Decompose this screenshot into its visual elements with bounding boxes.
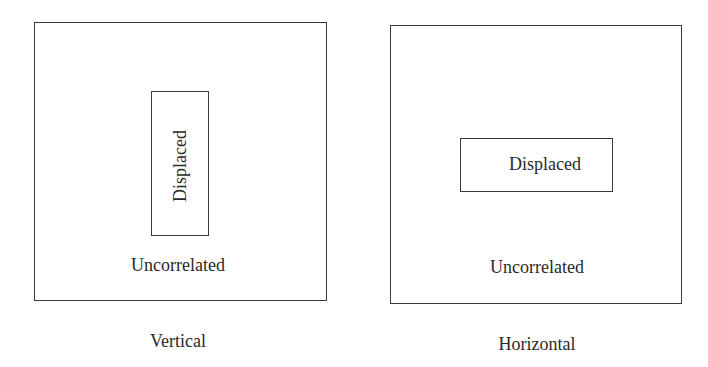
- uncorrelated-label-vertical: Uncorrelated: [80, 256, 276, 274]
- caption-horizontal: Horizontal: [437, 335, 637, 353]
- uncorrelated-label-horizontal: Uncorrelated: [437, 258, 637, 276]
- caption-vertical: Vertical: [80, 332, 276, 350]
- displaced-label-vertical: Displaced: [171, 130, 189, 202]
- displaced-label-horizontal: Displaced: [460, 155, 630, 173]
